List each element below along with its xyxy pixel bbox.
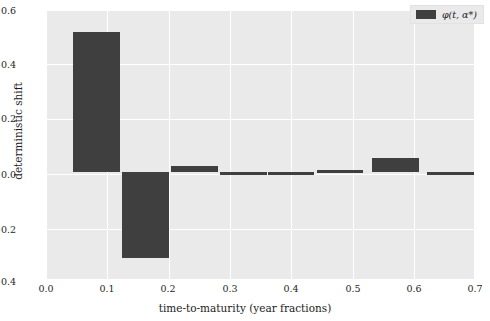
- legend-label-phi: φ(t, α*): [442, 9, 477, 20]
- gridline-horizontal: [46, 279, 475, 280]
- gridline-vertical: [230, 10, 231, 280]
- plot-area: [46, 10, 475, 280]
- y-tick-label: −0.4: [0, 277, 16, 287]
- x-tick-label: 0.1: [87, 284, 127, 294]
- bar: [427, 172, 474, 175]
- y-tick-label: −0.2: [0, 225, 16, 235]
- gridline-vertical: [353, 10, 354, 280]
- x-tick-label: 0.4: [271, 284, 311, 294]
- gridline-vertical: [474, 10, 475, 280]
- bar: [122, 172, 169, 258]
- legend-swatch-phi: [416, 10, 436, 19]
- legend: φ(t, α*): [410, 5, 484, 24]
- gridline-vertical: [414, 10, 415, 280]
- gridline-vertical: [46, 10, 47, 280]
- bar: [317, 170, 364, 173]
- bar: [171, 166, 218, 172]
- bar: [220, 172, 267, 175]
- bar: [268, 172, 315, 175]
- x-tick-label: 0.6: [394, 284, 434, 294]
- x-tick-label: 0.3: [210, 284, 250, 294]
- y-axis-label: deterministic shift: [12, 51, 24, 211]
- y-tick-label: 0.6: [0, 6, 16, 16]
- gridline-vertical: [169, 10, 170, 280]
- gridline-horizontal: [46, 229, 475, 230]
- x-axis-label: time-to-maturity (year fractions): [0, 302, 490, 314]
- gridline-vertical: [291, 10, 292, 280]
- x-tick-label: 0.2: [148, 284, 188, 294]
- bar: [372, 158, 419, 172]
- x-tick-label: 0.0: [26, 284, 66, 294]
- x-tick-label: 0.7: [455, 284, 490, 294]
- x-tick-label: 0.5: [333, 284, 373, 294]
- bar: [73, 32, 120, 172]
- chart-figure: 0.6 0.4 0.2 0.0 −0.2 −0.4 0.0 0.1 0.2 0.…: [0, 0, 490, 321]
